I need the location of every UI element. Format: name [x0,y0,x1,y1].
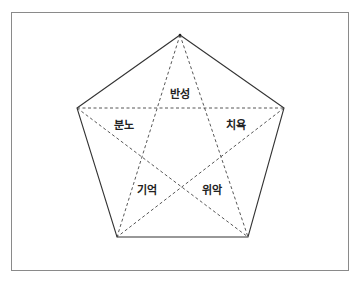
diagonal-top-to-bottom-right [180,35,248,237]
label-reflection: 반성 [170,89,190,100]
diagonal-right-to-bottom-left [117,108,284,237]
label-comfort: 위악 [202,185,222,196]
label-healing: 치욕 [226,120,246,131]
diagonal-left-to-bottom-right [77,108,248,237]
outer-pentagon [77,35,284,237]
diagonal-top-to-bottom-left [117,35,180,237]
label-anger: 분노 [114,120,134,131]
label-memory: 기억 [137,185,157,196]
pentagram-diagram [0,0,360,282]
top-vertex-dot [179,34,182,37]
